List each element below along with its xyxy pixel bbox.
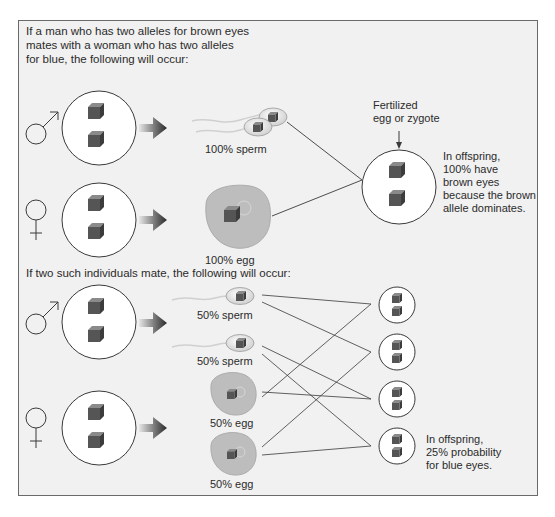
female-parent-cell — [62, 183, 136, 257]
female-symbol-icon — [26, 408, 46, 448]
egg-2-label: 50% egg — [210, 478, 253, 491]
fertilization-lines — [272, 122, 362, 216]
egg-cell — [206, 185, 271, 248]
sperm-1 — [172, 288, 254, 305]
zygote-label-line-1: Fertilized — [373, 99, 418, 112]
result-top-line-3: brown eyes — [443, 176, 499, 189]
result-top-line-5: allele dominates. — [443, 202, 526, 215]
cross-lines — [262, 295, 371, 455]
arrow-icon — [139, 117, 167, 139]
sperm-pair — [192, 108, 287, 136]
sperm-2 — [172, 335, 254, 352]
offspring-1 — [379, 287, 415, 323]
sperm-2-label: 50% sperm — [197, 355, 253, 368]
male-symbol-icon — [26, 302, 58, 334]
female-symbol-icon — [26, 200, 46, 240]
result-top-line-4: because the brown — [443, 189, 536, 202]
result-bottom-line-1: In offspring, — [426, 433, 483, 446]
zygote-arrow-icon — [396, 131, 402, 149]
second-heading: If two such individuals mate, the follow… — [26, 266, 291, 280]
intro-line-2: mates with a woman who has two alleles — [26, 38, 234, 52]
intro-line-1: If a man who has two alleles for brown e… — [26, 24, 249, 38]
offspring-4 — [379, 428, 415, 464]
arrow-icon — [139, 312, 167, 334]
offspring-2 — [379, 334, 415, 370]
female-parent-cell — [62, 391, 136, 465]
result-top-line-2: 100% have — [443, 163, 498, 176]
egg-1 — [211, 373, 256, 416]
zygote-label-line-2: egg or zygote — [373, 112, 440, 125]
arrow-icon — [139, 417, 167, 439]
egg-1-label: 50% egg — [210, 417, 253, 430]
result-top-line-1: In offspring, — [443, 150, 500, 163]
male-parent-cell — [62, 91, 136, 165]
male-symbol-icon — [26, 112, 58, 144]
intro-line-3: for blue, the following will occur: — [26, 52, 188, 66]
sperm-1-label: 50% sperm — [197, 309, 253, 322]
zygote-cell — [362, 150, 436, 224]
egg-2 — [211, 433, 256, 476]
offspring-3 — [379, 381, 415, 417]
sperm-label: 100% sperm — [205, 143, 267, 156]
arrow-icon — [139, 209, 167, 231]
result-bottom-line-3: for blue eyes. — [426, 459, 492, 472]
male-parent-cell — [62, 285, 136, 359]
result-bottom-line-2: 25% probability — [426, 446, 501, 459]
